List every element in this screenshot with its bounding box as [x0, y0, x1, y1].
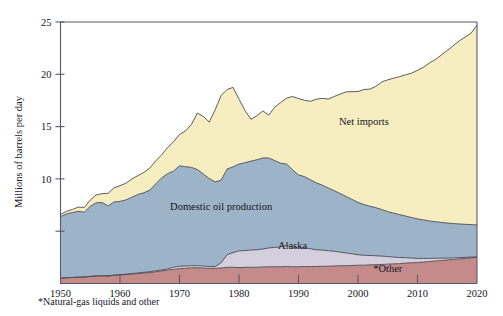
- x-tick-label: 2010: [407, 288, 428, 299]
- y-tick-label: 20: [41, 69, 52, 80]
- x-tick-label: 2020: [467, 288, 488, 299]
- chart-canvas: 10152025 1950196019701980199020002010202…: [0, 0, 503, 316]
- x-tick-label: 1990: [288, 288, 309, 299]
- y-tick-label: 15: [41, 121, 52, 132]
- x-tick-label: 1970: [169, 288, 190, 299]
- oil-supply-area-chart: 10152025 1950196019701980199020002010202…: [0, 0, 503, 316]
- x-tick-label: 2000: [348, 288, 369, 299]
- series-label-other: *Other: [373, 263, 403, 274]
- y-axis-title: Millions of barrels per day: [13, 95, 24, 208]
- series-label-domestic-oil-production: Domestic oil production: [170, 201, 273, 212]
- y-tick-label: 10: [41, 174, 52, 185]
- y-tick-label: 25: [41, 17, 52, 28]
- x-tick-label: 1980: [229, 288, 250, 299]
- series-label-net-imports: Net imports: [339, 116, 389, 127]
- series-label-alaska: Alaska: [278, 240, 307, 251]
- footnote-text: *Natural-gas liquids and other: [38, 296, 160, 307]
